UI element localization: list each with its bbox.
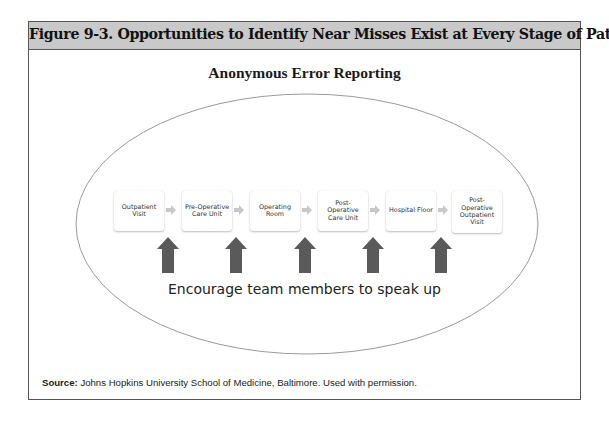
figure-frame: Figure 9-3. Opportunities to Identify Ne… — [28, 21, 581, 400]
step-post-operative-outpatient-visit: Post-Operative Outpatient Visit — [452, 191, 502, 233]
step-operating-room: Operating Room — [250, 191, 300, 231]
step-outpatient-visit: Outpatient Visit — [114, 191, 164, 231]
up-arrow-icon — [157, 237, 452, 273]
source-text: Johns Hopkins University School of Medic… — [78, 377, 417, 388]
diagram-caption: Encourage team members to speak up — [29, 281, 580, 297]
source-label: Source: — [42, 377, 78, 388]
step-post-operative-care-unit: Post-Operative Care Unit — [318, 191, 368, 231]
source-note: Source: Johns Hopkins University School … — [42, 377, 417, 388]
step-hospital-floor: Hospital Floor — [386, 191, 436, 231]
step-pre-operative-care-unit: Pre-Operative Care Unit — [182, 191, 232, 231]
